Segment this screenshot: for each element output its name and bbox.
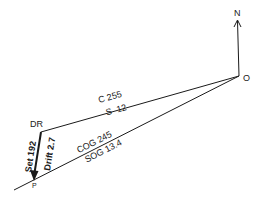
north-label: N [234, 8, 241, 18]
ground-track-line [14, 76, 239, 190]
position-label: P [32, 182, 37, 189]
course-line [41, 76, 239, 132]
dr-label: DR [30, 119, 43, 129]
north-arrow-line [238, 21, 240, 76]
drift-label: Drift 2.7 [42, 137, 57, 172]
current-triangle-diagram: N O DR P C 255 S 12 COG 245 SOG 13.4 Set… [0, 0, 261, 203]
course-label: C 255 [97, 89, 123, 105]
origin-label: O [243, 73, 250, 83]
speed-label: S 12 [105, 102, 128, 117]
